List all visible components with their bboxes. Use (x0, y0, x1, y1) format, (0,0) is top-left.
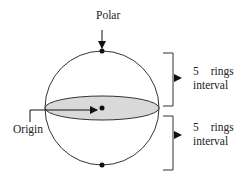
center-dot (100, 106, 105, 111)
sphere-diagram: Polar Origin 5 rings interval 5 rings in… (0, 0, 248, 175)
lower-interval-text-line2: interval (193, 135, 228, 147)
lower-interval-text: 5 rings (193, 121, 234, 134)
origin-label: Origin (13, 123, 43, 136)
upper-interval-text: 5 rings (193, 65, 234, 78)
upper-interval-arrow-icon (174, 74, 182, 82)
lower-interval-bracket (163, 116, 173, 170)
upper-interval-bracket (163, 53, 173, 106)
north-pole-dot (100, 49, 105, 54)
upper-interval-text-line2: interval (193, 79, 228, 91)
lower-interval-arrow-icon (174, 131, 182, 139)
south-pole-dot (100, 163, 105, 168)
polar-label: Polar (96, 9, 120, 21)
